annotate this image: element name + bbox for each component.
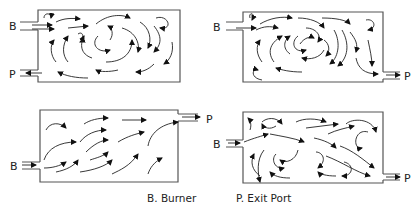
panel-top-left: B P bbox=[9, 10, 180, 82]
flow-arrows bbox=[22, 117, 200, 174]
exit-port-label: P bbox=[206, 113, 213, 126]
burner-label: B bbox=[213, 21, 221, 34]
flow-arrows bbox=[236, 14, 400, 80]
legend-exit-port: P. Exit Port bbox=[236, 192, 291, 204]
flow-arrows bbox=[228, 118, 400, 182]
exit-port-label: P bbox=[9, 68, 16, 81]
legend-burner: B. Burner bbox=[147, 192, 196, 204]
burner-label: B bbox=[10, 160, 18, 173]
furnace-chamber bbox=[243, 12, 383, 82]
exit-port-label: P bbox=[404, 70, 411, 83]
furnace-chamber bbox=[243, 112, 383, 183]
flow-arrows bbox=[26, 14, 173, 78]
panel-bottom-right: B P bbox=[213, 112, 411, 185]
panel-bottom-left: B P bbox=[10, 110, 213, 182]
panel-top-right: B P bbox=[213, 12, 411, 83]
furnace-flow-diagram: B P bbox=[0, 0, 420, 213]
burner-label: B bbox=[9, 20, 17, 33]
burner-label: B bbox=[213, 138, 221, 151]
exit-port-label: P bbox=[404, 172, 411, 185]
